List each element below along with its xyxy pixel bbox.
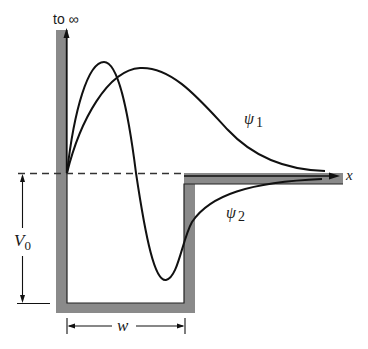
width-label: w [117,316,129,335]
x-axis-label: x [345,167,353,183]
psi1-label: ψ1 [244,110,263,130]
potential-well-diagram: to ∞ x ψ1 ψ2 V0 w [0,0,368,349]
potential-walls [56,30,343,313]
psi2-label: ψ2 [226,204,245,224]
left-infinite-wall [56,30,67,313]
right-step-wall [184,173,195,313]
depth-label: V0 [14,231,31,253]
width-right-arrowhead-icon [177,324,185,329]
depth-up-arrowhead-icon [20,174,25,182]
to-infinity-label: to ∞ [53,11,79,27]
well-boundary [67,30,343,303]
depth-down-arrowhead-icon [20,295,25,303]
width-left-arrowhead-icon [68,324,76,329]
psi1-curve [67,68,325,173]
well-floor [56,303,195,313]
